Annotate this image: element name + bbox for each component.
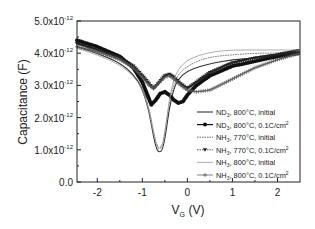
- y-axis: 0.01.0x10-122.0x10-123.0x10-124.0x10-125…: [34, 15, 81, 188]
- y-tick-label: 3.0x10-12: [34, 79, 73, 91]
- legend-entry: ND3, 800°C, initial: [197, 108, 276, 118]
- cv-chart: 0.01.0x10-122.0x10-123.0x10-124.0x10-125…: [0, 0, 315, 229]
- x-tick-label: 0: [185, 187, 191, 198]
- legend-entry: ND3, 800°C, 0.1C/cm2: [197, 120, 289, 131]
- y-tick-label: 0.0: [59, 177, 73, 188]
- y-axis-label: Capacitance (F): [16, 59, 30, 144]
- x-tick-label: 1: [230, 187, 236, 198]
- legend: ND3, 800°C, initialND3, 800°C, 0.1C/cm2N…: [197, 108, 289, 181]
- series-1: [75, 38, 300, 106]
- x-axis: -2-1012: [93, 178, 281, 198]
- y-tick-label: 1.0x10-12: [34, 144, 73, 156]
- legend-label: NH3, 800°C, initial: [216, 158, 276, 168]
- legend-label: ND3, 800°C, 0.1C/cm2: [216, 120, 289, 131]
- legend-label: ND3, 800°C, initial: [216, 108, 276, 118]
- legend-label: NH3, 800°C, 0.1C/cm2: [216, 170, 289, 181]
- y-tick-label: 4.0x10-12: [34, 47, 73, 59]
- legend-label: NH3, 770°C, 0.1C/cm2: [216, 145, 289, 156]
- legend-entry: NH3, 770°C, 0.1C/cm2: [197, 145, 289, 156]
- legend-label: NH3, 770°C, initial: [216, 133, 276, 143]
- legend-entry: NH3, 800°C, initial: [197, 158, 276, 168]
- x-axis-label: VG (V): [172, 203, 205, 218]
- y-tick-label: 2.0x10-12: [34, 112, 73, 124]
- x-tick-label: -1: [138, 187, 147, 198]
- y-tick-label: 5.0x10-12: [34, 15, 73, 27]
- legend-entry: NH3, 770°C, initial: [197, 133, 276, 143]
- legend-entry: NH3, 800°C, 0.1C/cm2: [197, 170, 289, 181]
- x-tick-label: 2: [275, 187, 281, 198]
- x-tick-label: -2: [93, 187, 102, 198]
